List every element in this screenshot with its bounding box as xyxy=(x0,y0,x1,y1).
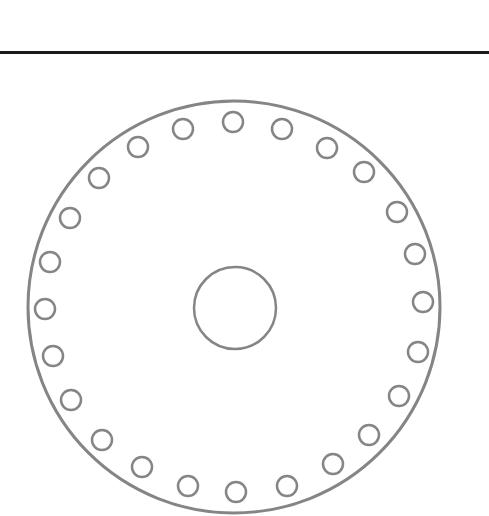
perimeter-hole xyxy=(359,425,379,445)
perimeter-hole xyxy=(389,386,409,406)
perimeter-hole xyxy=(223,112,243,132)
perimeter-hole xyxy=(89,168,109,188)
perimeter-holes-ring xyxy=(35,112,433,502)
perimeter-hole xyxy=(173,119,193,139)
perimeter-hole xyxy=(354,162,374,182)
perimeter-hole xyxy=(387,202,407,222)
perimeter-hole xyxy=(92,430,112,450)
perimeter-hole xyxy=(178,476,198,496)
perimeter-hole xyxy=(128,137,148,157)
center-hole-circle xyxy=(194,267,276,349)
perimeter-hole xyxy=(413,292,433,312)
perimeter-hole xyxy=(61,390,81,410)
perimeter-hole xyxy=(43,346,63,366)
outer-disc-circle xyxy=(28,101,440,513)
perimeter-hole xyxy=(40,252,60,272)
perimeter-hole xyxy=(226,482,246,502)
perimeter-hole xyxy=(35,299,55,319)
perimeter-hole xyxy=(405,244,425,264)
perimeter-hole xyxy=(317,138,337,158)
perimeter-hole xyxy=(60,208,80,228)
perimeter-hole xyxy=(277,476,297,496)
perimeter-hole xyxy=(323,454,343,474)
perimeter-hole xyxy=(132,457,152,477)
perimeter-hole xyxy=(272,119,292,139)
perimeter-hole xyxy=(408,342,428,362)
disc-diagram xyxy=(0,0,489,516)
